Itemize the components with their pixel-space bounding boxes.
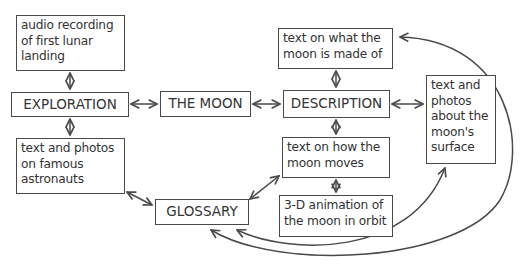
node-text-line: photos	[431, 94, 491, 110]
node-astronauts: text and photos on famous astronauts	[16, 138, 125, 194]
node-text-line: moon's	[431, 125, 491, 141]
node-the-moon: THE MOON	[160, 91, 251, 117]
node-label: THE MOON	[168, 96, 242, 112]
node-glossary: GLOSSARY	[155, 199, 249, 225]
node-exploration: EXPLORATION	[11, 92, 129, 117]
node-surface: text and photos about the moon's surface	[426, 75, 496, 164]
node-label: GLOSSARY	[166, 204, 238, 220]
node-text-line: about the	[431, 109, 491, 125]
node-label: EXPLORATION	[23, 97, 117, 113]
node-description: DESCRIPTION	[283, 90, 390, 118]
node-text-line: surface	[431, 140, 491, 156]
node-text-line: on famous	[21, 157, 120, 173]
node-text-line: moon moves	[287, 156, 385, 172]
node-text-line: landing	[21, 49, 120, 65]
node-text-line: moon is made of	[283, 47, 388, 63]
node-moves: text on how the moon moves	[282, 137, 390, 178]
node-text-line: astronauts	[21, 172, 120, 188]
edge-astronauts-glossary	[127, 192, 152, 205]
edge-glossary-moves	[250, 176, 279, 199]
node-text-line: the moon in orbit	[284, 214, 388, 230]
node-text-line: audio recording	[21, 18, 120, 34]
node-text-line: text and	[431, 78, 491, 94]
node-text-line: of first lunar	[21, 34, 120, 50]
node-text-line: text on how the	[287, 140, 385, 156]
node-text-line: 3-D animation of	[284, 198, 388, 214]
node-audio-recording: audio recording of first lunar landing	[16, 15, 125, 71]
node-label: DESCRIPTION	[291, 96, 382, 112]
node-text-line: text on what the	[283, 31, 388, 47]
node-animation: 3-D animation of the moon in orbit	[279, 195, 393, 237]
node-text-line: text and photos	[21, 141, 120, 157]
node-made-of: text on what the moon is made of	[278, 28, 393, 69]
